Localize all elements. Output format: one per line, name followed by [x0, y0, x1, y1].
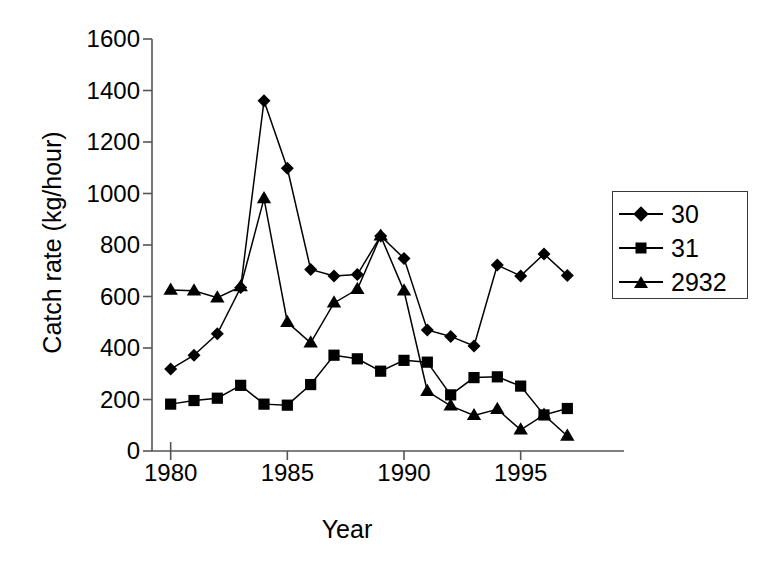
- data-point-diamond: [281, 162, 294, 175]
- data-point-diamond: [444, 330, 457, 343]
- data-point-triangle: [187, 283, 201, 295]
- data-point-square: [375, 366, 386, 377]
- data-point-square: [282, 400, 293, 411]
- data-point-triangle: [327, 295, 341, 307]
- data-point-square: [212, 393, 223, 404]
- diamond-icon: [613, 199, 669, 229]
- data-point-square: [328, 350, 339, 361]
- square-icon: [613, 233, 669, 263]
- data-point-triangle: [163, 282, 177, 294]
- data-point-diamond: [304, 263, 317, 276]
- legend-item-label: 31: [671, 236, 699, 261]
- series-30: [164, 94, 574, 375]
- data-point-square: [258, 399, 269, 410]
- data-point-diamond: [421, 323, 434, 336]
- legend-item-label: 2932: [671, 270, 727, 295]
- legend-item-0[interactable]: 30: [613, 196, 749, 232]
- data-point-square: [562, 403, 573, 414]
- data-point-diamond: [491, 259, 504, 272]
- data-point-square: [188, 395, 199, 406]
- data-point-triangle: [280, 315, 294, 327]
- data-point-triangle: [420, 384, 434, 396]
- data-point-triangle: [397, 283, 411, 295]
- data-point-diamond: [258, 94, 271, 107]
- data-point-square: [398, 355, 409, 366]
- series-line: [171, 199, 568, 436]
- series-2932: [163, 191, 574, 441]
- data-point-diamond: [164, 363, 177, 376]
- data-point-diamond: [468, 339, 481, 352]
- series-31: [165, 350, 573, 421]
- data-point-triangle: [373, 228, 387, 240]
- data-point-triangle: [490, 402, 504, 414]
- data-point-square: [235, 380, 246, 391]
- triangle-icon: [613, 267, 669, 297]
- data-point-square: [492, 371, 503, 382]
- legend-item-label: 30: [671, 202, 699, 227]
- data-point-square: [468, 372, 479, 383]
- data-point-square: [422, 357, 433, 368]
- series-line: [171, 101, 568, 369]
- data-point-triangle: [303, 335, 317, 347]
- data-point-square: [352, 353, 363, 364]
- series-line: [171, 355, 568, 415]
- data-point-triangle: [513, 422, 527, 434]
- data-point-triangle: [560, 429, 574, 441]
- data-point-triangle: [350, 282, 364, 294]
- data-point-triangle: [257, 191, 271, 203]
- data-point-square: [305, 379, 316, 390]
- chart-figure: Catch rate (kg/hour) Year 02004006008001…: [0, 0, 775, 571]
- legend-item-2[interactable]: 2932: [613, 264, 749, 300]
- data-point-square: [515, 381, 526, 392]
- data-point-square: [165, 399, 176, 410]
- legend-item-1[interactable]: 31: [613, 230, 749, 266]
- data-point-diamond: [328, 269, 341, 282]
- legend: 30 31 2932: [612, 191, 748, 299]
- data-point-triangle: [233, 279, 247, 291]
